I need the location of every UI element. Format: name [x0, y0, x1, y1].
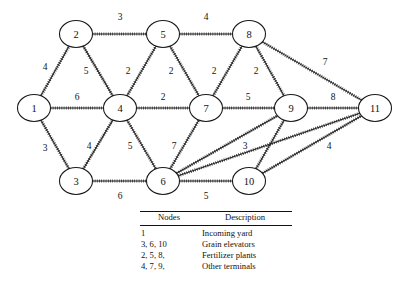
- legend-table-wrapper: Nodes Description 1Incoming yard3, 6, 10…: [140, 211, 292, 272]
- node-5[interactable]: 5: [147, 21, 180, 48]
- edge-weight-6-7: 7: [172, 141, 177, 151]
- legend-row: 2, 5, 8,Fertilizer plants: [140, 250, 292, 261]
- edge-weight-4-7: 2: [161, 92, 166, 102]
- edge-weight-7-8: 2: [212, 66, 217, 76]
- node-6[interactable]: 6: [147, 168, 180, 195]
- node-1[interactable]: 1: [18, 95, 51, 122]
- node-label: 3: [73, 176, 78, 187]
- node-2[interactable]: 2: [60, 21, 93, 48]
- edge-rail: [178, 113, 360, 176]
- edge-rail: [262, 116, 361, 173]
- legend-body: 1Incoming yard3, 6, 10Grain elevators2, …: [140, 225, 292, 272]
- node-label: 2: [73, 29, 78, 40]
- edge-weight-1-4: 6: [75, 92, 80, 102]
- edge-weight-3-6: 6: [118, 191, 123, 201]
- edge-7-8: [213, 46, 242, 96]
- edge-rail: [127, 46, 156, 96]
- edge-rail: [170, 46, 199, 96]
- edge-6-11: [178, 113, 360, 176]
- edge-weight-5-7: 2: [169, 66, 174, 76]
- legend-cell-nodes: 1: [140, 225, 198, 239]
- edge-weight-10-11: 4: [327, 141, 332, 151]
- edge-8-11: [262, 42, 361, 100]
- legend-row: 4, 7, 9,Other terminals: [140, 261, 292, 272]
- edge-weight-4-6: 5: [128, 141, 133, 151]
- edge-9-10: [256, 120, 284, 169]
- edge-rail: [177, 116, 278, 174]
- legend-cell-description: Other terminals: [198, 261, 292, 272]
- node-10[interactable]: 10: [233, 168, 266, 195]
- node-label: 7: [203, 103, 208, 114]
- figure-canvas: 1234567891011 344522227625834573465 Node…: [0, 0, 404, 281]
- edge-5-7: [170, 46, 199, 96]
- legend-cell-nodes: 3, 6, 10: [140, 239, 198, 250]
- edge-rail: [262, 42, 361, 100]
- edge-weight-9-11: 8: [331, 92, 336, 102]
- edge-8-9: [256, 46, 284, 96]
- node-label: 5: [160, 29, 165, 40]
- node-4[interactable]: 4: [104, 95, 137, 122]
- edge-6-9: [177, 116, 278, 174]
- node-3[interactable]: 3: [60, 168, 93, 195]
- edge-rail: [256, 46, 284, 96]
- legend-table: Nodes Description 1Incoming yard3, 6, 10…: [140, 211, 292, 272]
- legend-header-row: Nodes Description: [140, 212, 292, 226]
- edge-weight-1-2: 4: [43, 62, 48, 72]
- edge-4-5: [127, 46, 156, 96]
- edge-weight-2-4: 5: [84, 66, 89, 76]
- node-label: 9: [288, 103, 293, 114]
- node-9[interactable]: 9: [275, 95, 308, 122]
- edge-weight-6-10: 5: [204, 191, 209, 201]
- node-label: 8: [246, 29, 251, 40]
- legend-cell-nodes: 2, 5, 8,: [140, 250, 198, 261]
- legend-header-nodes: Nodes: [140, 212, 198, 226]
- edge-weight-3-4: 4: [87, 141, 92, 151]
- edge-weight-4-5: 2: [126, 66, 131, 76]
- node-label: 6: [160, 176, 165, 187]
- edge-weight-5-8: 4: [204, 12, 209, 22]
- edge-weight-8-11: 7: [323, 57, 328, 67]
- legend-cell-description: Fertilizer plants: [198, 250, 292, 261]
- legend-header-description: Description: [198, 212, 292, 226]
- node-11[interactable]: 11: [359, 95, 392, 122]
- node-label: 10: [244, 176, 255, 187]
- edge-weight-8-9: 2: [254, 66, 259, 76]
- legend-row: 3, 6, 10Grain elevators: [140, 239, 292, 250]
- edge-rail: [256, 120, 284, 169]
- node-label: 1: [31, 103, 36, 114]
- legend-cell-description: Grain elevators: [198, 239, 292, 250]
- node-8[interactable]: 8: [233, 21, 266, 48]
- edge-10-11: [262, 116, 361, 173]
- legend-cell-nodes: 4, 7, 9,: [140, 261, 198, 272]
- legend-cell-description: Incoming yard: [198, 225, 292, 239]
- edge-weight-7-9: 5: [246, 92, 251, 102]
- edge-weight-1-3: 3: [43, 143, 48, 153]
- node-7[interactable]: 7: [190, 95, 223, 122]
- edge-weight-2-5: 3: [118, 12, 123, 22]
- edge-weight-6-9: 3: [243, 141, 248, 151]
- node-label: 4: [117, 103, 123, 114]
- legend-row: 1Incoming yard: [140, 225, 292, 239]
- edge-rail: [213, 46, 242, 96]
- node-label: 11: [370, 103, 380, 114]
